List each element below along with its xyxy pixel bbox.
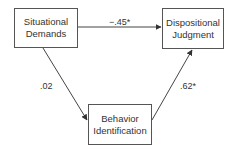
node-label-line2: Identification bbox=[93, 125, 146, 137]
node-label-line2: Judgment bbox=[172, 29, 214, 41]
node-label-line2: Demands bbox=[26, 28, 67, 40]
edge-label-behavior-to-dispositional: .62* bbox=[180, 81, 196, 91]
node-label-line1: Behavior bbox=[101, 113, 139, 125]
node-label-line1: Dispositional bbox=[166, 17, 220, 29]
node-behavior-identification: Behavior Identification bbox=[88, 104, 152, 145]
edge-label-situational-to-behavior: .02 bbox=[40, 81, 53, 91]
edge-label-situational-to-dispositional: −.45* bbox=[109, 17, 130, 27]
node-dispositional-judgment: Dispositional Judgment bbox=[162, 8, 224, 49]
node-situational-demands: Situational Demands bbox=[14, 8, 78, 48]
node-label-line1: Situational bbox=[24, 16, 68, 28]
